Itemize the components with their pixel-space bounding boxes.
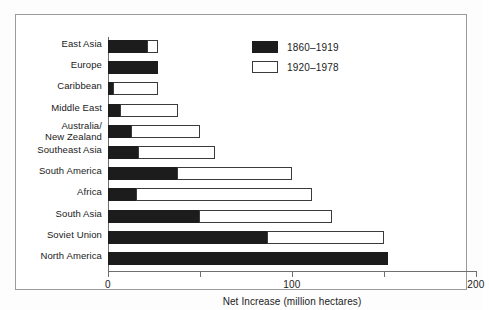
axis-tick-50 [200, 271, 201, 277]
axis-tick-label-100: 100 [283, 279, 300, 290]
axis-tick-label-200: 200 [467, 279, 484, 290]
bar-row: South Asia [16, 207, 489, 227]
legend-label: 1920–1978 [287, 62, 339, 73]
bar-segment-1920-1978 [138, 146, 214, 159]
bar-segment-1860-1919 [108, 188, 137, 201]
bar-row: Africa [16, 185, 489, 205]
x-axis-title: Net Increase (million hectares) [108, 296, 476, 307]
legend-item: 1920–1978 [252, 57, 412, 77]
stacked-bar [108, 231, 384, 244]
bar-row-label: North America [16, 250, 102, 261]
stacked-bar [108, 125, 200, 138]
stacked-bar [108, 82, 158, 95]
bar-row-label-line1: Australia/ [16, 120, 102, 131]
bar-row: Australia/New Zealand [16, 122, 489, 142]
bar-row-label: South America [16, 165, 102, 176]
bar-segment-1920-1978 [113, 82, 158, 95]
bar-segment-1860-1919 [108, 146, 139, 159]
bar-row: Caribbean [16, 79, 489, 99]
bar-row-label: Africa [16, 186, 102, 197]
legend-swatch-hollow [252, 61, 278, 73]
bar-row: Middle East [16, 101, 489, 121]
axis-tick-100 [292, 271, 293, 277]
chart-legend: 1860–19191920–1978 [252, 37, 412, 77]
bar-row: Soviet Union [16, 228, 489, 248]
bar-segment-1860-1919 [108, 61, 158, 74]
bar-row: Southeast Asia [16, 143, 489, 163]
bar-segment-1860-1919 [108, 40, 148, 53]
bar-row-label: Australia/New Zealand [16, 120, 102, 142]
stacked-bar [108, 40, 158, 53]
bar-row-label: Europe [16, 59, 102, 70]
legend-item: 1860–1919 [252, 37, 412, 57]
stacked-bar [108, 146, 215, 159]
axis-tick-0 [108, 271, 109, 277]
stacked-bar [108, 61, 158, 74]
stacked-bar [108, 210, 332, 223]
bar-row-label: Middle East [16, 102, 102, 113]
bar-row-label: East Asia [16, 38, 102, 49]
bar-segment-1920-1978 [267, 231, 384, 244]
bar-segment-1860-1919 [108, 167, 178, 180]
legend-label: 1860–1919 [287, 42, 339, 53]
bar-row-label: Southeast Asia [16, 144, 102, 155]
bar-segment-1920-1978 [120, 104, 178, 117]
bar-segment-1860-1919 [108, 231, 268, 244]
bar-row-label-line2: New Zealand [16, 131, 102, 142]
bar-segment-1920-1978 [199, 210, 332, 223]
bar-segment-1920-1978 [147, 40, 157, 53]
chart-frame: 0100200 East AsiaEuropeCaribbeanMiddle E… [15, 14, 467, 290]
stacked-bar [108, 252, 388, 265]
bar-segment-1860-1919 [108, 210, 200, 223]
stacked-bar [108, 167, 292, 180]
bar-row: North America [16, 249, 489, 269]
bar-segment-1920-1978 [131, 125, 200, 138]
stacked-bar [108, 104, 178, 117]
bar-row-label: Caribbean [16, 80, 102, 91]
axis-tick-150 [384, 271, 385, 277]
bar-row-label: South Asia [16, 208, 102, 219]
bar-row: South America [16, 164, 489, 184]
bar-segment-1860-1919 [108, 125, 132, 138]
legend-swatch-filled [252, 41, 278, 53]
bar-segment-1920-1978 [136, 188, 312, 201]
bar-row-label: Soviet Union [16, 229, 102, 240]
stacked-bar [108, 188, 312, 201]
bar-segment-1920-1978 [177, 167, 292, 180]
bar-segment-1860-1919 [108, 252, 388, 265]
axis-tick-label-0: 0 [105, 279, 111, 290]
axis-tick-200 [476, 271, 477, 277]
